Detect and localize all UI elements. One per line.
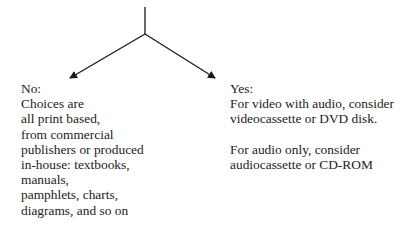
no-line: Choices are — [21, 96, 144, 111]
no-line: manuals, — [21, 172, 144, 187]
no-line: all print based, — [21, 111, 144, 126]
yes-branch-text: Yes: For video with audio, consider vide… — [230, 81, 394, 172]
yes-arrow — [145, 34, 215, 78]
no-line: from commercial — [21, 127, 144, 142]
yes-line: For video with audio, consider — [230, 96, 394, 111]
yes-line: audiocassette or CD-ROM — [230, 157, 394, 172]
yes-line: videocassette or DVD disk. — [230, 111, 394, 126]
paragraph-gap — [230, 127, 394, 142]
no-arrow — [70, 34, 145, 78]
yes-label: Yes: — [230, 81, 394, 96]
no-line: diagrams, and so on — [21, 203, 144, 218]
no-line: in-house: textbooks, — [21, 157, 144, 172]
no-line: pamphlets, charts, — [21, 187, 144, 202]
no-line: publishers or produced — [21, 142, 144, 157]
yes-line: For audio only, consider — [230, 142, 394, 157]
no-label: No: — [21, 81, 144, 96]
no-branch-text: No: Choices are all print based, from co… — [21, 81, 144, 218]
